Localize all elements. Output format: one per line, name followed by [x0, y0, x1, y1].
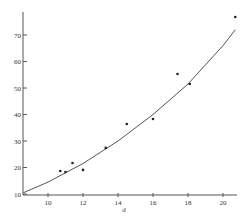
- x-axis-label: d: [122, 206, 126, 214]
- data-point: [59, 170, 62, 173]
- x-tick-label: 20: [220, 199, 228, 207]
- y-tick-label: 60: [14, 58, 22, 66]
- x-tick-label: 14: [115, 199, 123, 207]
- x-tick-label: 12: [80, 199, 88, 207]
- y-tick-label: 40: [14, 111, 22, 119]
- data-point: [71, 162, 74, 165]
- x-tick-label: 16: [150, 199, 158, 207]
- data-point: [152, 118, 155, 121]
- data-point: [82, 169, 85, 172]
- data-point: [234, 16, 237, 19]
- y-tick-label: 30: [14, 138, 22, 146]
- scatter-chart: 10203040506070 101214161820 d: [0, 0, 250, 219]
- y-tick-label: 20: [14, 164, 22, 172]
- data-point: [125, 123, 128, 126]
- x-tick-label: 18: [185, 199, 193, 207]
- y-tick-label: 50: [14, 85, 22, 93]
- y-ticks: 10203040506070: [14, 32, 27, 199]
- data-point: [64, 171, 67, 174]
- data-point: [104, 147, 107, 150]
- data-point: [176, 73, 179, 76]
- fitted-curve: [24, 30, 236, 193]
- x-tick-label: 10: [45, 199, 53, 207]
- data-point: [188, 83, 191, 86]
- data-points: [59, 16, 237, 174]
- y-tick-label: 70: [14, 32, 22, 40]
- y-tick-label: 10: [14, 191, 22, 199]
